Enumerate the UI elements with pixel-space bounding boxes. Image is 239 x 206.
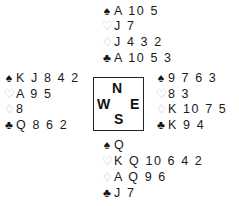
spade-icon: ♠ [101, 3, 113, 19]
compass-box: N W E S [93, 77, 144, 131]
spade-icon: ♠ [101, 137, 113, 153]
heart-icon: ♡ [3, 86, 15, 102]
east-spades: 9 7 6 3 [168, 70, 217, 86]
club-icon: ♣ [3, 117, 15, 133]
compass-east: E [130, 96, 139, 112]
spade-icon: ♠ [155, 70, 167, 86]
west-hearts: A 9 5 [16, 86, 53, 102]
club-icon: ♣ [101, 185, 113, 201]
east-diamonds: K 10 7 5 [168, 101, 227, 117]
north-spades: A 10 5 [114, 3, 159, 19]
north-hearts: J 7 [114, 18, 135, 34]
compass-west: W [97, 96, 110, 112]
club-icon: ♣ [155, 117, 167, 133]
diamond-icon: ♢ [101, 169, 113, 185]
club-icon: ♣ [101, 50, 113, 66]
diamond-icon: ♢ [101, 34, 113, 50]
south-clubs: J 7 [114, 185, 135, 201]
heart-icon: ♡ [101, 18, 113, 34]
heart-icon: ♡ [101, 153, 113, 169]
east-clubs: K 9 4 [168, 117, 205, 133]
spade-icon: ♠ [3, 70, 15, 86]
diamond-icon: ♢ [3, 101, 15, 117]
north-clubs: A 10 5 3 [114, 50, 173, 66]
compass-south: S [114, 111, 123, 127]
west-spades: K J 8 4 2 [16, 70, 80, 86]
west-diamonds: 8 [16, 101, 25, 117]
south-spades: Q [114, 137, 125, 153]
east-hearts: 8 3 [168, 86, 190, 102]
diamond-icon: ♢ [155, 101, 167, 117]
south-hearts: K Q 10 6 4 2 [114, 153, 203, 169]
south-diamonds: A Q 9 6 [114, 169, 167, 185]
west-clubs: Q 8 6 2 [16, 117, 68, 133]
north-diamonds: J 4 3 2 [114, 34, 163, 50]
heart-icon: ♡ [155, 86, 167, 102]
compass-north: N [112, 80, 122, 96]
